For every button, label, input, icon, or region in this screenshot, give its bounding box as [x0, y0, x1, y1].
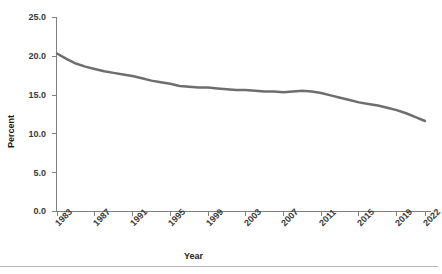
y-tick-label: 20.0 — [12, 51, 46, 61]
y-tick-label: 0.0 — [12, 206, 46, 216]
data-series-line — [57, 53, 425, 121]
y-tick-label: 5.0 — [12, 168, 46, 178]
x-axis-title: Year — [184, 251, 203, 261]
y-tick-label: 15.0 — [12, 90, 46, 100]
y-tick-label: 10.0 — [12, 129, 46, 139]
y-axis-title: Percent — [6, 115, 16, 148]
y-tick-label: 25.0 — [12, 12, 46, 22]
y-tick-marks — [52, 18, 57, 212]
